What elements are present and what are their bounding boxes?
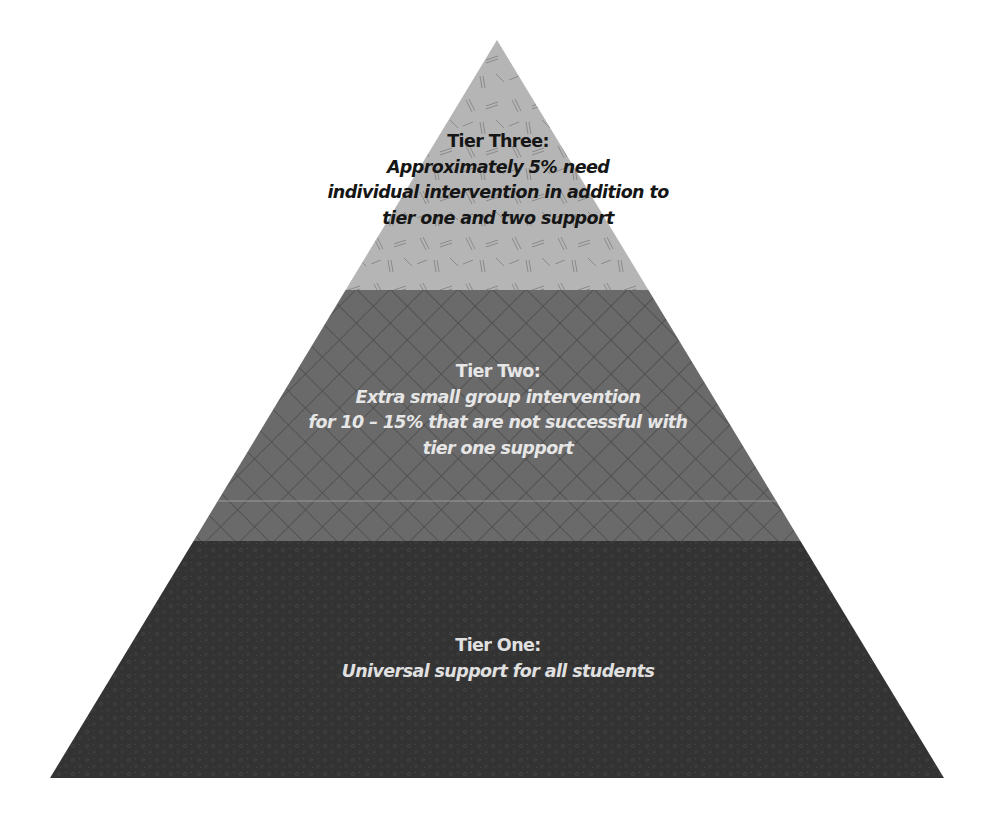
tier-three-label: Tier Three: Approximately 5% need indivi… bbox=[248, 129, 748, 231]
tier-one-description: Universal support for all students bbox=[248, 659, 748, 685]
tier-one-title: Tier One: bbox=[248, 633, 748, 659]
tier-one-label: Tier One: Universal support for all stud… bbox=[248, 633, 748, 684]
tier-three-title: Tier Three: bbox=[248, 129, 748, 155]
tier-two-label: Tier Two: Extra small group intervention… bbox=[248, 359, 748, 461]
tier-two-description: Extra small group intervention for 10 – … bbox=[248, 385, 748, 462]
tier-two-title: Tier Two: bbox=[248, 359, 748, 385]
tier-three-description: Approximately 5% need individual interve… bbox=[248, 155, 748, 232]
